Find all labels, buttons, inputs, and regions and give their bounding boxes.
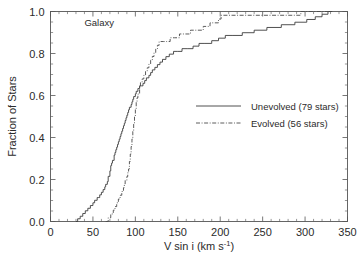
- x-tick-label: 200: [211, 226, 229, 238]
- series-line-evolved: [106, 12, 333, 222]
- x-tick-label: 150: [169, 226, 187, 238]
- chart-figure: 0501001502002503003500.00.20.40.60.81.0V…: [0, 0, 357, 259]
- y-tick-label: 1.0: [29, 6, 44, 18]
- y-tick-label: 0.4: [29, 132, 44, 144]
- x-tick-label: 300: [296, 226, 314, 238]
- annotations: Galaxy: [84, 17, 114, 28]
- y-tick-label: 0.0: [29, 216, 44, 228]
- legend: Unevolved (79 stars)Evolved (56 stars): [196, 101, 339, 129]
- x-tick-label: 350: [338, 226, 356, 238]
- panel-annotation: Galaxy: [84, 17, 114, 28]
- y-tick-label: 0.6: [29, 90, 44, 102]
- axis-labels: 0501001502002503003500.00.20.40.60.81.0V…: [6, 6, 357, 253]
- x-tick-label: 0: [47, 226, 53, 238]
- x-axis-title: V sin i (km s-1): [164, 239, 234, 252]
- y-tick-label: 0.8: [29, 48, 44, 60]
- x-tick-label: 100: [126, 226, 144, 238]
- data-series: [76, 12, 332, 222]
- cdf-plot: 0501001502002503003500.00.20.40.60.81.0V…: [0, 0, 357, 259]
- x-tick-label: 50: [87, 226, 99, 238]
- y-axis-title: Fraction of Stars: [6, 76, 18, 157]
- y-tick-label: 0.2: [29, 174, 44, 186]
- legend-label-evolved: Evolved (56 stars): [251, 118, 328, 129]
- x-tick-label: 250: [253, 226, 271, 238]
- series-line-unevolved: [76, 12, 332, 222]
- legend-label-unevolved: Unevolved (79 stars): [251, 101, 339, 112]
